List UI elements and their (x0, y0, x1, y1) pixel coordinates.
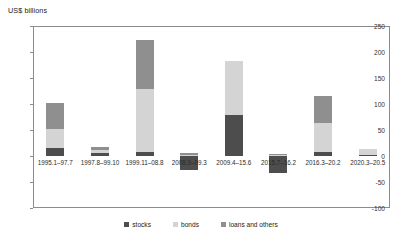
y-tick-mark (30, 130, 33, 131)
y-tick-mark (30, 52, 33, 53)
plot-frame-bottom (33, 207, 390, 208)
y-axis-title: US$ billions (8, 6, 47, 15)
bar-segment-loans-and-others[interactable] (314, 96, 332, 123)
x-tick-label: 2008.9–09.3 (172, 159, 207, 166)
bar-segment-loans-and-others[interactable] (180, 153, 198, 155)
x-tick-label: 2016.3–20.2 (306, 159, 341, 166)
legend-swatch-icon (173, 222, 178, 227)
bar-segment-bonds[interactable] (269, 155, 287, 156)
bar-stack[interactable] (225, 26, 243, 208)
bar-segment-bonds[interactable] (180, 155, 198, 156)
bar-stack[interactable] (91, 26, 109, 208)
legend-label: stocks (132, 221, 151, 228)
legend-item[interactable]: loans and others (221, 221, 278, 228)
x-tick-label: 1997.8–99.10 (81, 159, 120, 166)
bar-segment-stocks[interactable] (136, 152, 154, 156)
bar-segment-stocks[interactable] (359, 155, 377, 156)
bar-segment-loans-and-others[interactable] (136, 40, 154, 89)
x-tick-label: 1999.11–08.8 (126, 159, 164, 166)
bar-segment-bonds[interactable] (46, 129, 64, 148)
plot-area: -100-50050100150200250 (33, 26, 390, 208)
bar-segment-loans-and-others[interactable] (91, 147, 109, 151)
x-tick-label: 2015.7–16.2 (261, 159, 296, 166)
y-tick-mark (30, 104, 33, 105)
legend-item[interactable]: bonds (173, 221, 199, 228)
bar-stack[interactable] (136, 26, 154, 208)
bar-segment-stocks[interactable] (225, 115, 243, 156)
bar-segment-stocks[interactable] (314, 152, 332, 156)
x-tick-label: 1995.1–97.7 (38, 159, 73, 166)
bar-stack[interactable] (269, 26, 287, 208)
y-tick-mark (30, 26, 33, 27)
bar-segment-bonds[interactable] (225, 61, 243, 115)
bar-segment-loans-and-others[interactable] (269, 154, 287, 155)
y-tick-label: 50 (378, 127, 385, 134)
bar-segment-bonds[interactable] (136, 89, 154, 151)
x-tick-label: 2020.3–20.5 (350, 159, 385, 166)
legend-label: bonds (181, 221, 199, 228)
legend-swatch-icon (124, 222, 129, 227)
legend-item[interactable]: stocks (124, 221, 151, 228)
legend-swatch-icon (221, 222, 226, 227)
bar-stack[interactable] (180, 26, 198, 208)
bar-stack[interactable] (46, 26, 64, 208)
bar-segment-bonds[interactable] (91, 150, 109, 153)
y-tick-label: -50 (375, 179, 385, 186)
bar-segment-bonds[interactable] (359, 149, 377, 155)
chart-container: US$ billions -100-50050100150200250 1995… (0, 0, 402, 234)
chart-legend: stocksbondsloans and others (0, 221, 402, 228)
bar-segment-stocks[interactable] (91, 153, 109, 156)
bar-segment-bonds[interactable] (314, 123, 332, 153)
plot-frame-right (389, 26, 390, 208)
bar-segment-loans-and-others[interactable] (46, 103, 64, 129)
y-axis-line (33, 26, 34, 208)
bar-stack[interactable] (314, 26, 332, 208)
x-tick-label: 2009.4–15.6 (216, 159, 251, 166)
y-tick-mark (30, 182, 33, 183)
legend-label: loans and others (229, 221, 278, 228)
y-tick-mark (30, 208, 33, 209)
bar-stack[interactable] (359, 26, 377, 208)
bar-segment-stocks[interactable] (46, 148, 64, 156)
x-axis-zero-line (33, 26, 390, 27)
y-tick-mark (30, 78, 33, 79)
y-tick-mark (30, 156, 33, 157)
